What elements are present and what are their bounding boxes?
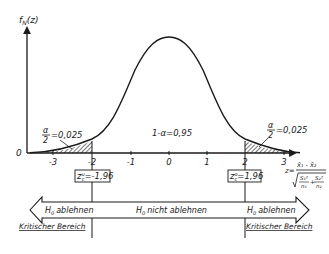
svg-text:n₂: n₂ — [316, 183, 322, 189]
svg-text:=0,025: =0,025 — [51, 130, 82, 140]
svg-text:zuc=-1,96: zuc=-1,96 — [76, 171, 114, 182]
right-alpha-label: α 2 =0,025 — [259, 121, 307, 147]
svg-text:α: α — [268, 121, 274, 130]
svg-text:x̄₁ - x̄₂: x̄₁ - x̄₂ — [296, 161, 317, 169]
svg-text:2: 2 — [43, 136, 48, 145]
normal-distribution-diagram: fN(z) 0 -3 -2 -1 0 1 2 3 1-α=0,95 α 2 =0… — [0, 0, 329, 254]
svg-text:S₂²: S₂² — [315, 175, 324, 181]
x-tick-labels: -3 -2 -1 0 1 2 3 — [49, 157, 287, 167]
middle-region-label: H0nicht ablehnen — [136, 206, 207, 216]
left-critical-value-box: zuc=-1,96 — [75, 170, 114, 182]
z-statistic-formula: z= x̄₁ - x̄₂ S₁² n₁ + S₂² n₂ — [284, 161, 326, 189]
svg-text:z=: z= — [284, 167, 295, 175]
svg-text:3: 3 — [281, 157, 286, 167]
svg-text:-1: -1 — [127, 157, 135, 167]
svg-text:n₁: n₁ — [301, 183, 307, 189]
svg-text:zoc=1,96: zoc=1,96 — [229, 171, 264, 182]
confidence-label: 1-α=0,95 — [152, 128, 192, 138]
right-critical-region-caption: Kritischer Bereich — [246, 222, 313, 231]
svg-text:S₁²: S₁² — [300, 175, 309, 181]
svg-text:2: 2 — [268, 131, 273, 140]
svg-text:α: α — [43, 126, 49, 135]
origin-label: 0 — [16, 148, 22, 158]
svg-text:-3: -3 — [49, 157, 57, 167]
svg-text:0: 0 — [166, 157, 171, 167]
left-critical-region-caption: Kritischer Bereich — [19, 222, 86, 231]
right-critical-value-box: zoc=1,96 — [228, 170, 264, 182]
y-axis-label: fN(z) — [19, 15, 38, 26]
svg-text:=0,025: =0,025 — [276, 125, 307, 135]
left-alpha-label: α 2 =0,025 — [42, 126, 82, 149]
svg-text:1: 1 — [204, 157, 209, 167]
